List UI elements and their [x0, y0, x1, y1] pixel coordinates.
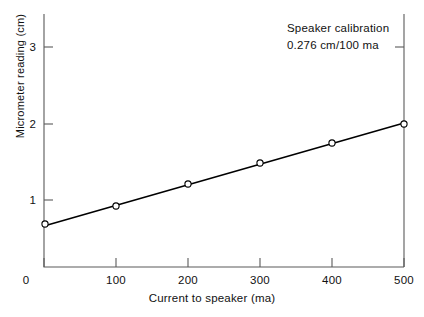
xtick-label-400: 400 — [322, 274, 342, 286]
xtick-label-0: 0 — [23, 274, 30, 286]
data-point — [42, 221, 48, 227]
fit-line — [44, 123, 404, 226]
annotation-line-1: Speaker calibration — [287, 20, 389, 37]
data-point — [113, 203, 119, 209]
y-axis-title: Micrometer reading (cm) — [14, 0, 26, 166]
data-point — [257, 160, 263, 166]
annotation-line-2: 0.276 cm/100 ma — [287, 37, 389, 54]
xtick-label-500: 500 — [394, 274, 414, 286]
xtick-label-300: 300 — [250, 274, 270, 286]
x-axis-title: Current to speaker (ma) — [0, 292, 424, 304]
data-point — [185, 181, 191, 187]
chart-figure: 1 2 3 0 100 200 300 400 500 Current to s… — [0, 0, 424, 317]
ytick-label-1: 1 — [14, 194, 36, 206]
chart-annotation: Speaker calibration 0.276 cm/100 ma — [287, 20, 389, 54]
data-point — [401, 121, 407, 127]
xtick-label-200: 200 — [178, 274, 198, 286]
xtick-label-100: 100 — [106, 274, 126, 286]
data-point — [329, 140, 335, 146]
